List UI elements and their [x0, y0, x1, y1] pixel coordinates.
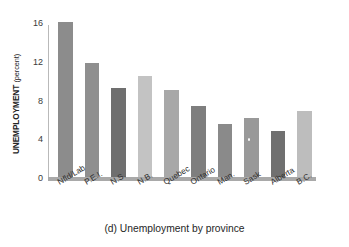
bar-n-b[interactable] — [138, 76, 153, 177]
bar-b-c[interactable] — [297, 111, 312, 177]
bar-group — [111, 22, 126, 177]
figure-caption: (d) Unemployment by province — [0, 223, 349, 234]
y-tick-4: 4 — [38, 134, 43, 144]
bar-man[interactable] — [218, 124, 233, 177]
bar-ontario[interactable] — [191, 106, 206, 177]
y-tick-16: 16 — [33, 18, 43, 28]
y-tick-8: 8 — [38, 96, 43, 106]
bar-quebec[interactable] — [164, 90, 179, 177]
bar-group — [297, 22, 312, 177]
unemployment-bar-chart-figure: UNEMPLOYMENT (percent) 0481216 Nfld/LabP… — [0, 0, 349, 247]
y-axis-title-main: UNEMPLOYMENT — [11, 85, 21, 154]
bar-series — [52, 22, 318, 177]
bar-nfld-lab[interactable] — [58, 22, 73, 177]
bar-n-s[interactable] — [111, 88, 126, 177]
bar-group — [85, 22, 100, 177]
bar-group — [271, 22, 286, 177]
y-tick-12: 12 — [33, 57, 43, 67]
bar-group — [58, 22, 73, 177]
bar-p-e-i[interactable] — [85, 63, 100, 177]
bar-group — [191, 22, 206, 177]
bar-sask[interactable] — [244, 118, 259, 177]
y-axis-title-unit: (percent) — [12, 54, 21, 83]
bar-group — [244, 22, 259, 177]
bar-group — [164, 22, 179, 177]
y-axis-title: UNEMPLOYMENT (percent) — [6, 34, 26, 174]
plot-area: 0481216 — [52, 22, 318, 178]
x-axis-tick-labels: Nfld/LabP.E.I.N.S.N.B.QuebecOntarioMan.S… — [52, 179, 318, 219]
bar-group — [218, 22, 233, 177]
bar-group — [138, 22, 153, 177]
y-axis-line — [48, 25, 49, 178]
y-tick-0: 0 — [38, 173, 43, 183]
